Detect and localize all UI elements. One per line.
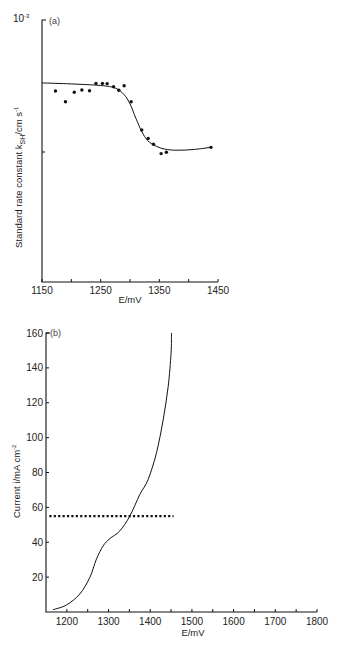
panel-a-fit-curve [42, 83, 211, 150]
data-point [94, 82, 97, 85]
panel-b-current: 1200130014001500160017001800 20406080100… [11, 328, 329, 639]
data-point [73, 91, 76, 94]
panel-a-rate-constant: 1150125013501450 10-3 (a) E/mV Standard … [13, 13, 230, 305]
data-point [140, 128, 143, 131]
data-point [159, 152, 162, 155]
panel-a-x-axis-title: E/mV [118, 294, 142, 305]
data-point [122, 84, 125, 87]
x-tick-label: 1600 [222, 616, 245, 627]
y-tick-label: 20 [32, 572, 44, 583]
y-tick-label: 100 [26, 432, 43, 443]
data-point [129, 100, 132, 103]
data-point [88, 89, 91, 92]
panel-a-axes [42, 20, 218, 282]
x-tick-label: 1700 [264, 616, 287, 627]
panel-a-label: (a) [49, 16, 60, 26]
panel-b-y-tick-labels: 20406080100120140160 [26, 328, 43, 583]
x-tick-label: 1400 [139, 616, 162, 627]
x-tick-label: 1250 [90, 285, 113, 296]
data-point [165, 151, 168, 154]
panel-b-y-axis-title: Current i/mA cm-2 [11, 444, 22, 518]
panel-b-x-axis-title: E/mV [181, 627, 205, 638]
panel-b-label: (b) [50, 328, 61, 338]
data-point [105, 82, 108, 85]
panel-b-current-curve [53, 333, 171, 610]
panel-b-axes [46, 333, 317, 612]
y-tick-label: 160 [26, 328, 43, 339]
y-tick-label: 120 [26, 397, 43, 408]
data-point [101, 82, 104, 85]
x-tick-label: 1350 [148, 285, 171, 296]
y-tick-label: 140 [26, 362, 43, 373]
panel-b-x-tick-labels: 1200130014001500160017001800 [56, 616, 329, 627]
x-tick-label: 1500 [181, 616, 204, 627]
data-point [80, 88, 83, 91]
panel-a-data-points [54, 82, 213, 156]
panel-a-y-axis-title: Standard rate constant kSH/cm s-1 [13, 106, 26, 248]
data-point [64, 100, 67, 103]
x-tick-label: 1300 [97, 616, 120, 627]
y-tick-label: 80 [32, 467, 44, 478]
x-tick-label: 1200 [56, 616, 79, 627]
x-tick-label: 1800 [306, 616, 329, 627]
data-point [152, 142, 155, 145]
data-point [117, 89, 120, 92]
data-point [209, 146, 212, 149]
x-tick-label: 1450 [207, 285, 230, 296]
chart-figure: 1150125013501450 10-3 (a) E/mV Standard … [0, 0, 339, 652]
data-point [112, 85, 115, 88]
y-tick-label: 40 [32, 537, 44, 548]
y-tick-label: 60 [32, 502, 44, 513]
x-tick-label: 1150 [31, 285, 53, 296]
panel-a-y-top-label: 10-3 [13, 13, 30, 24]
data-point [146, 137, 149, 140]
data-point [54, 89, 57, 92]
